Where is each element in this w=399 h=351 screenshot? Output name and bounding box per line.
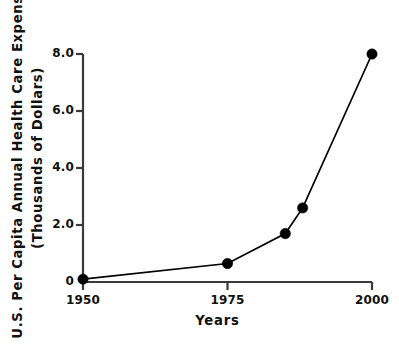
x-tick-label-1975: 1975 xyxy=(210,293,244,307)
x-axis-tick-labels: 195019752000 xyxy=(0,0,399,351)
x-tick-label-2000: 2000 xyxy=(355,293,389,307)
x-tick-label-1950: 1950 xyxy=(66,293,100,307)
chart-container: U.S. Per Capita Annual Health Care Expen… xyxy=(0,0,399,351)
